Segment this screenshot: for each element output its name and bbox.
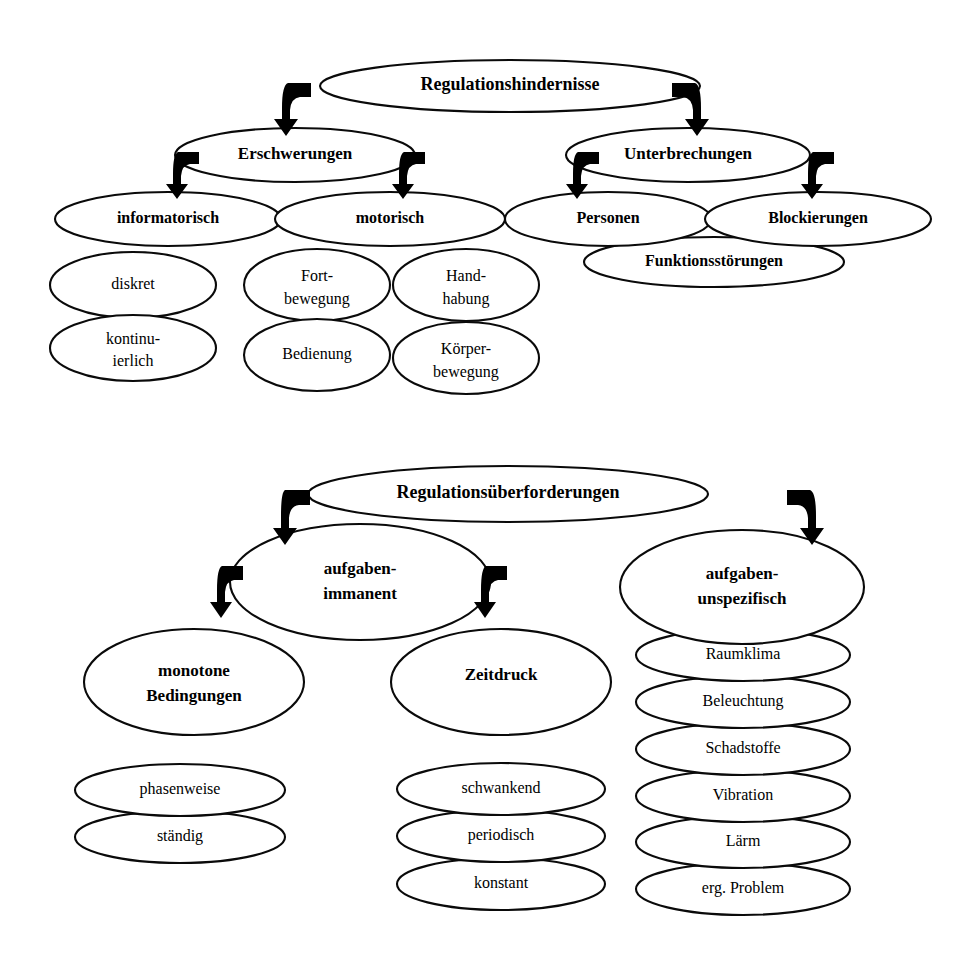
leaf-label-line2: bewegung [284, 290, 350, 308]
leaf-label: Lärm [726, 832, 761, 849]
node-label-line2: immanent [323, 584, 397, 603]
leaf-node-kontinuierlich[interactable]: kontinu- ierlich [50, 315, 216, 381]
node-label-line1: aufgaben- [324, 559, 397, 578]
leaf-label: diskret [111, 275, 155, 292]
node-motorisch[interactable]: motorisch [275, 192, 505, 246]
node-label-line2: Bedingungen [146, 686, 242, 705]
node-zeitdruck[interactable]: Zeitdruck [391, 629, 611, 735]
leaf-label-line2: bewegung [433, 363, 499, 381]
leaf-label: phasenweise [140, 780, 221, 798]
leaf-node-schadstoffe[interactable]: Schadstoffe [636, 723, 850, 775]
leaf-node-periodisch[interactable]: periodisch [397, 810, 605, 862]
leaf-label: konstant [474, 874, 529, 891]
leaf-group-zeitdruck: konstant periodisch schwankend [397, 763, 605, 910]
leaf-node-handhabung[interactable]: Hand- habung [393, 249, 539, 321]
leaf-label: Beleuchtung [703, 692, 784, 710]
hierarchy-diagram-canvas: diskret kontinu- ierlich Fort- bewegung … [0, 0, 970, 972]
leaf-label-line1: Fort- [301, 267, 333, 284]
leaf-node-fortbewegung[interactable]: Fort- bewegung [244, 249, 390, 321]
node-blockierungen[interactable]: Blockierungen [705, 192, 931, 246]
leaf-label: ständig [157, 827, 203, 845]
leaf-label: Bedienung [282, 345, 351, 363]
leaf-node-diskret[interactable]: diskret [50, 252, 216, 318]
leaf-node-phasenweise[interactable]: phasenweise [75, 764, 285, 816]
node-informatorisch[interactable]: informatorisch [55, 192, 281, 246]
node-label: Erschwerungen [238, 144, 353, 163]
root-label: Regulationsüberforderungen [396, 482, 619, 502]
leaf-label: Vibration [713, 786, 773, 803]
leaf-label-line1: kontinu- [106, 330, 160, 347]
leaf-node-laerm[interactable]: Lärm [636, 816, 850, 868]
node-label-line1: monotone [158, 661, 230, 680]
node-label: informatorisch [117, 209, 219, 226]
node-erschwerungen[interactable]: Erschwerungen [175, 128, 415, 182]
leaf-label-line1: Körper- [441, 340, 491, 358]
leaf-node-erg-problem[interactable]: erg. Problem [636, 863, 850, 915]
leaf-label-line2: habung [442, 290, 489, 308]
leaf-label: erg. Problem [702, 879, 785, 897]
leaf-node-konstant[interactable]: konstant [397, 858, 605, 910]
node-unterbrechungen[interactable]: Unterbrechungen [566, 128, 810, 182]
leaf-label-line2: ierlich [113, 352, 154, 369]
leaf-label: schwankend [461, 779, 540, 796]
node-regulationsueberforderungen[interactable]: Regulationsüberforderungen [308, 466, 708, 522]
node-label: Personen [576, 209, 639, 226]
node-label-line1: aufgaben- [706, 564, 779, 583]
leaf-node-staendig[interactable]: ständig [75, 811, 285, 863]
root-label: Regulationshindernisse [420, 74, 599, 94]
leaf-node-schwankend[interactable]: schwankend [397, 763, 605, 815]
node-monotone-bedingungen[interactable]: monotone Bedingungen [84, 629, 304, 735]
leaf-label: Raumklima [706, 645, 781, 662]
leaf-node-koerperbewegung[interactable]: Körper- bewegung [393, 322, 539, 394]
node-aufgaben-immanent[interactable]: aufgaben- immanent [230, 524, 490, 640]
leaf-node-beleuchtung[interactable]: Beleuchtung [636, 676, 850, 728]
leaf-node-vibration[interactable]: Vibration [636, 770, 850, 822]
node-aufgaben-unspezifisch[interactable]: aufgaben- unspezifisch [620, 530, 864, 644]
node-label-line2: unspezifisch [698, 589, 787, 608]
node-label: Zeitdruck [465, 665, 538, 684]
node-label: motorisch [356, 209, 425, 226]
leaf-node-bedienung[interactable]: Bedienung [244, 319, 390, 391]
leaf-label: Schadstoffe [705, 739, 780, 756]
node-label: Unterbrechungen [624, 144, 753, 163]
leaf-label: periodisch [468, 826, 535, 844]
node-label: Funktionsstörungen [645, 252, 783, 270]
node-regulationshindernisse[interactable]: Regulationshindernisse [320, 60, 700, 112]
node-label: Blockierungen [768, 209, 868, 227]
node-personen[interactable]: Personen [505, 192, 711, 246]
leaf-label-line1: Hand- [446, 267, 486, 284]
